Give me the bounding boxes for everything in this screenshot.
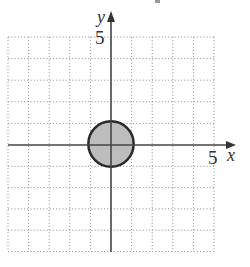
x-axis-label: x: [226, 145, 235, 165]
y-axis-arrow-icon: [107, 11, 115, 22]
coordinate-plane: y 5 5 x: [0, 0, 250, 267]
y-tick-label-5: 5: [95, 27, 105, 48]
y-axis-label: y: [95, 7, 105, 27]
clipped-text-fragment: [155, 0, 160, 3]
x-tick-label-5: 5: [208, 147, 218, 168]
